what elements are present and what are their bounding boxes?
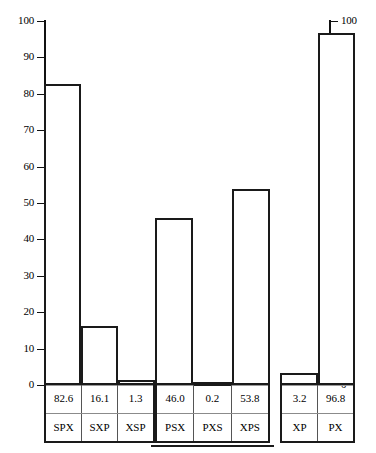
category-cell-psx: PSX (157, 414, 194, 442)
value-cell-spx: 82.6 (46, 385, 82, 413)
table-group-3: 3.296.8XPPX (280, 385, 355, 443)
y-tick-left-50 (37, 203, 44, 204)
y-tick-left-60 (37, 167, 44, 168)
y-tick-right-70 (331, 130, 338, 131)
y-tick-left-30 (37, 276, 44, 277)
y-tick-label-left-0: 0 (29, 379, 34, 390)
category-cell-xp: XP (282, 414, 318, 442)
y-tick-left-40 (37, 239, 44, 240)
y-tick-label-left-80: 80 (23, 88, 34, 99)
table-row: PSXPXSXPS (157, 414, 268, 442)
y-tick-label-right-20: 20 (341, 306, 352, 317)
y-tick-label-left-10: 10 (23, 343, 34, 354)
y-tick-right-100 (331, 21, 338, 22)
bar-xp[interactable] (280, 373, 318, 385)
category-cell-pxs: PXS (194, 414, 231, 442)
value-cell-psx: 46.0 (157, 385, 194, 413)
category-cell-sxp: SXP (82, 414, 118, 442)
value-cell-px: 96.8 (318, 385, 353, 413)
group-underline (151, 445, 274, 447)
y-tick-right-50 (331, 203, 338, 204)
y-tick-right-80 (331, 94, 338, 95)
table-row: 3.296.8 (282, 385, 353, 414)
table-row: 46.00.253.8 (157, 385, 268, 414)
value-cell-xsp: 1.3 (118, 385, 153, 413)
y-tick-left-70 (37, 130, 44, 131)
y-tick-label-left-20: 20 (23, 306, 34, 317)
bar-spx[interactable] (44, 84, 81, 385)
y-tick-label-left-30: 30 (23, 270, 34, 281)
y-tick-left-80 (37, 94, 44, 95)
y-tick-right-20 (331, 312, 338, 313)
y-tick-right-90 (331, 57, 338, 58)
category-cell-xps: XPS (232, 414, 268, 442)
table-group-1: 82.616.11.3SPXSXPXSP (44, 385, 155, 443)
bar-chart: 0102030405060708090100 01020304050607080… (0, 0, 376, 453)
y-tick-label-right-60: 60 (341, 161, 352, 172)
y-tick-label-right-50: 50 (341, 197, 352, 208)
y-tick-label-left-40: 40 (23, 233, 34, 244)
table-group-2: 46.00.253.8PSXPXSXPS (155, 385, 270, 443)
table-row: XPPX (282, 414, 353, 442)
table-row: 82.616.11.3 (46, 385, 153, 414)
y-tick-label-right-70: 70 (341, 124, 352, 135)
category-cell-spx: SPX (46, 414, 82, 442)
table-row: SPXSXPXSP (46, 414, 153, 442)
y-axis-left-line (44, 20, 46, 386)
y-tick-label-right-90: 90 (341, 51, 352, 62)
y-tick-left-0 (37, 385, 44, 386)
category-cell-px: PX (318, 414, 353, 442)
y-tick-left-10 (37, 349, 44, 350)
y-tick-left-90 (37, 57, 44, 58)
y-tick-right-30 (331, 276, 338, 277)
value-cell-pxs: 0.2 (194, 385, 231, 413)
y-tick-label-left-60: 60 (23, 161, 34, 172)
y-tick-label-right-30: 30 (341, 270, 352, 281)
category-cell-xsp: XSP (118, 414, 153, 442)
bar-xps[interactable] (232, 189, 270, 385)
y-tick-label-left-50: 50 (23, 197, 34, 208)
y-tick-label-right-100: 100 (341, 15, 357, 26)
y-tick-label-right-80: 80 (341, 88, 352, 99)
y-tick-right-10 (331, 349, 338, 350)
value-cell-sxp: 16.1 (82, 385, 118, 413)
y-tick-label-left-70: 70 (23, 124, 34, 135)
y-tick-label-left-90: 90 (23, 51, 34, 62)
y-tick-right-40 (331, 239, 338, 240)
y-tick-label-left-100: 100 (18, 15, 34, 26)
value-cell-xp: 3.2 (282, 385, 318, 413)
value-cell-xps: 53.8 (232, 385, 268, 413)
bar-px[interactable] (318, 33, 356, 385)
bar-psx[interactable] (155, 218, 193, 385)
y-tick-left-20 (37, 312, 44, 313)
y-tick-label-right-40: 40 (341, 233, 352, 244)
y-tick-left-100 (37, 21, 44, 22)
bar-sxp[interactable] (81, 326, 118, 385)
y-tick-label-right-10: 10 (341, 343, 352, 354)
y-tick-right-60 (331, 167, 338, 168)
